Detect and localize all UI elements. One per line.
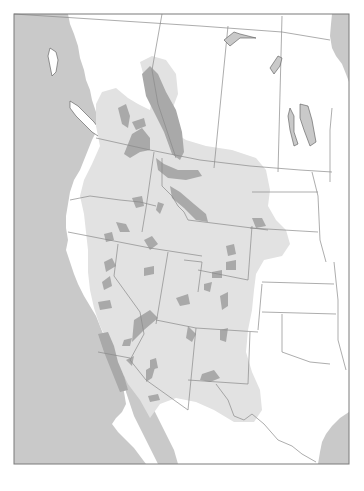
range-map [0, 0, 364, 491]
